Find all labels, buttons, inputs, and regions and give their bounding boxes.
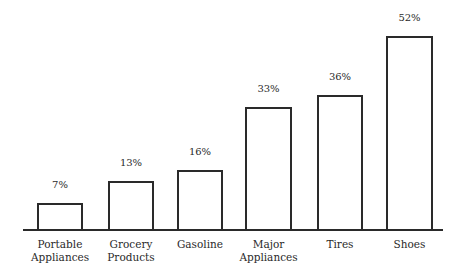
bar-gasoline (177, 170, 223, 229)
value-label: 36% (310, 71, 370, 82)
category-label: Shoes (365, 238, 455, 251)
value-label: 33% (239, 83, 299, 94)
value-label: 52% (380, 12, 440, 23)
bar-shoes (386, 36, 433, 229)
bar-portable-appliances (37, 203, 83, 229)
bar-major-appliances (245, 107, 292, 229)
bar-grocery-products (108, 181, 154, 229)
value-label: 16% (170, 146, 230, 157)
x-axis-line (23, 229, 443, 231)
value-label: 7% (30, 179, 90, 190)
value-label: 13% (101, 157, 161, 168)
bar-chart: 7%Portable Appliances13%Grocery Products… (0, 0, 464, 275)
bar-tires (317, 95, 363, 229)
